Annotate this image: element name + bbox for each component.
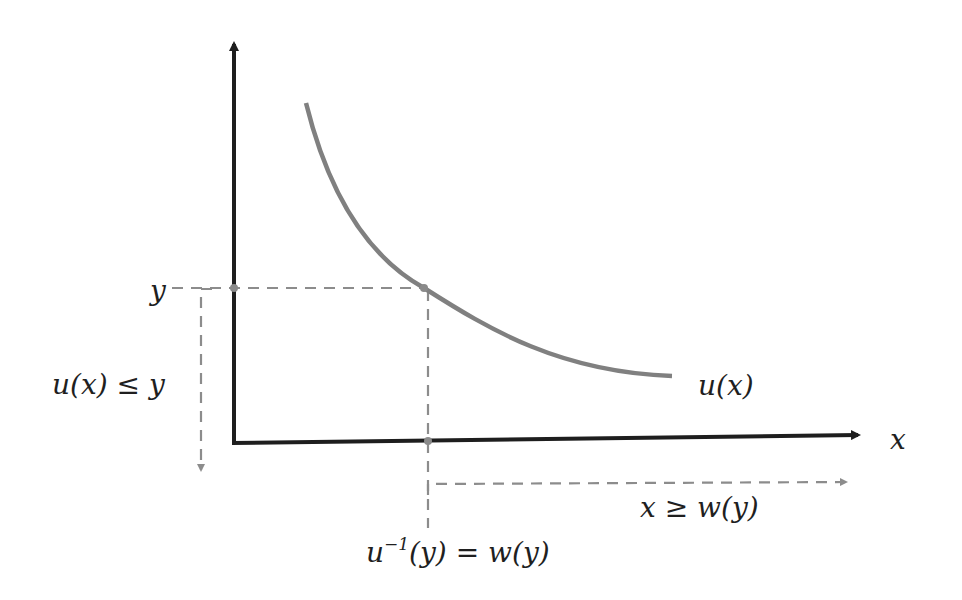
label-curve-u: u(x) bbox=[698, 369, 754, 402]
rightward-arrow-guide bbox=[428, 482, 846, 495]
label-x-axis: x bbox=[890, 423, 906, 456]
label-region-x: x ≥ w(y) bbox=[640, 491, 759, 524]
point-w-on-x-axis bbox=[424, 437, 432, 445]
inverse-superscript: −1 bbox=[384, 534, 409, 554]
inverse-base: u bbox=[366, 536, 384, 569]
inverse-rest: (y) = w(y) bbox=[409, 536, 550, 569]
diagram-canvas: y u(x) ≤ y u(x) x x ≥ w(y) u−1(y) = w(y) bbox=[0, 0, 962, 600]
label-y-level: y bbox=[148, 274, 167, 307]
downward-arrow-guide bbox=[201, 289, 212, 470]
marker-points bbox=[230, 284, 432, 445]
x-axis bbox=[232, 435, 858, 443]
point-on-curve bbox=[420, 284, 428, 292]
label-region-y: u(x) ≤ y bbox=[52, 368, 166, 401]
curve-u-of-x bbox=[306, 103, 672, 376]
label-inverse: u−1(y) = w(y) bbox=[366, 534, 550, 569]
axes bbox=[232, 44, 858, 444]
point-y-on-axis bbox=[230, 284, 238, 292]
